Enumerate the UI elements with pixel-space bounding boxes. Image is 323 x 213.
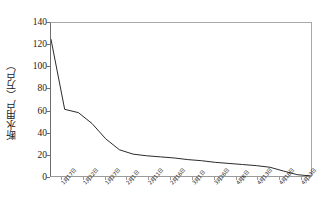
y-axis-tick-label: 0 [7,172,47,182]
line-series-path [51,39,311,176]
y-axis-tick-label: 40 [7,128,47,138]
chart-figure: 断水用户（万户） 020406080100120140 1月17日1月22日1月… [0,0,323,213]
y-axis-tick-mark [46,177,50,178]
y-axis-tick-label: 60 [7,106,47,116]
y-axis-tick-label: 120 [7,39,47,49]
line-series-svg [51,23,311,176]
y-axis-tick-label: 80 [7,83,47,93]
y-axis-tick-label: 20 [7,150,47,160]
y-axis-tick-label: 140 [7,17,47,27]
plot-area [50,22,312,177]
y-axis-tick-label: 100 [7,61,47,71]
